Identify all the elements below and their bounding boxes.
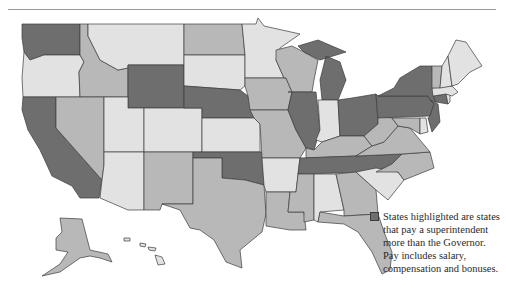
state-new-mexico [144, 152, 193, 210]
state-hawaii [124, 238, 165, 265]
state-arizona [100, 152, 144, 210]
state-kansas [202, 118, 260, 152]
state-delaware [420, 118, 428, 134]
state-north-dakota [184, 24, 245, 55]
state-maine [448, 40, 482, 86]
state-florida [318, 212, 392, 274]
state-alaska [42, 218, 112, 276]
state-wyoming [128, 65, 184, 108]
state-south-dakota [184, 55, 245, 90]
state-indiana [316, 100, 340, 142]
state-arkansas [262, 158, 300, 192]
state-washington [22, 24, 80, 60]
state-iowa [245, 78, 292, 110]
legend-swatch-highlighted [370, 212, 379, 221]
legend-text: States highlighted are states that pay a… [383, 210, 501, 275]
state-pennsylvania [376, 94, 434, 118]
state-colorado [144, 108, 202, 152]
